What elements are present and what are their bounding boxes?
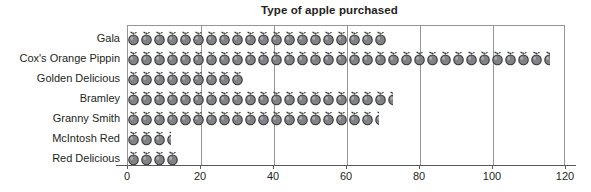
y-axis-label: Bramley: [0, 88, 123, 108]
apple-icon: [166, 51, 179, 66]
apple-icon: [478, 51, 491, 66]
apple-icon: [309, 91, 322, 106]
pictogram-row: [127, 48, 550, 68]
apple-icon: [322, 51, 335, 66]
apple-icon: [179, 91, 192, 106]
apple-icon: [543, 51, 550, 66]
apple-icon: [374, 31, 386, 46]
apple-icon-partial: [374, 111, 379, 126]
chart-title: Type of apple purchased: [34, 4, 591, 16]
pictogram-row: [127, 88, 393, 108]
apple-icon: [283, 111, 296, 126]
apple-icon: [361, 31, 374, 46]
pictogram-row: [127, 108, 379, 128]
x-axis-tick-label: 120: [545, 170, 585, 182]
apple-icon: [244, 91, 257, 106]
apple-icon: [309, 31, 322, 46]
apple-icon: [153, 31, 166, 46]
apple-icon: [192, 71, 205, 86]
apple-icon: [127, 131, 140, 146]
apple-icon: [361, 51, 374, 66]
apple-icon: [322, 91, 335, 106]
apple-icon: [153, 151, 166, 166]
apple-icon: [153, 111, 166, 126]
x-axis-tick-label: 80: [399, 170, 439, 182]
x-axis-tick-label: 40: [253, 170, 293, 182]
apple-icon: [361, 91, 374, 106]
apple-icon: [426, 51, 439, 66]
apple-icon-partial: [231, 71, 244, 86]
x-axis-tick: [273, 165, 274, 169]
apple-icon: [166, 91, 179, 106]
apple-icon: [140, 91, 153, 106]
apple-icon: [179, 71, 192, 86]
apple-icon: [179, 111, 192, 126]
apple-icon: [283, 51, 296, 66]
apple-icon: [296, 31, 309, 46]
apple-icon: [205, 111, 218, 126]
apple-icon: [296, 51, 309, 66]
apple-icon: [296, 91, 309, 106]
apple-icon: [257, 91, 270, 106]
x-axis-tick-label: 0: [107, 170, 147, 182]
apple-icon: [387, 91, 393, 106]
apple-icon: [374, 91, 387, 106]
apple-icon: [231, 91, 244, 106]
apple-icon: [127, 111, 140, 126]
apple-icon: [335, 91, 348, 106]
apple-icon: [127, 91, 140, 106]
x-axis-tick: [127, 165, 128, 169]
apple-icon: [361, 111, 374, 126]
apple-icon: [218, 71, 231, 86]
y-axis-label: Red Delicious: [0, 148, 123, 168]
pictogram-row: [127, 28, 386, 48]
pictogram-row: [127, 68, 244, 88]
apple-icon-partial: [166, 151, 178, 166]
apple-icon: [257, 31, 270, 46]
apple-icon: [517, 51, 530, 66]
apple-icon: [140, 71, 153, 86]
y-axis-label: Cox's Orange Pippin: [0, 48, 123, 68]
apple-icon: [127, 151, 140, 166]
apple-icon: [127, 71, 140, 86]
x-axis-tick: [419, 165, 420, 169]
y-axis-label: Granny Smith: [0, 108, 123, 128]
apple-icon: [374, 111, 379, 126]
x-axis-tick-label: 20: [180, 170, 220, 182]
apple-icon: [192, 91, 205, 106]
apple-icon-partial: [374, 31, 386, 46]
x-axis-tick-label: 100: [472, 170, 512, 182]
x-axis-tick: [565, 165, 566, 169]
apple-icon: [244, 111, 257, 126]
apple-icon: [335, 51, 348, 66]
apple-icon: [283, 31, 296, 46]
apple-icon-partial: [543, 51, 550, 66]
apple-icon: [530, 51, 543, 66]
apple-icon: [140, 51, 153, 66]
apple-icon: [166, 151, 178, 166]
apple-icon: [153, 51, 166, 66]
apple-icon: [153, 71, 166, 86]
apple-icon: [283, 91, 296, 106]
x-axis-tick-label: 60: [326, 170, 366, 182]
x-axis-tick: [200, 165, 201, 169]
y-axis-label: Golden Delicious: [0, 68, 123, 88]
apple-icon: [348, 91, 361, 106]
apple-icon: [296, 111, 309, 126]
apple-icon: [192, 51, 205, 66]
apple-icon: [179, 31, 192, 46]
apple-icon: [179, 51, 192, 66]
y-axis-labels: GalaCox's Orange PippinGolden DeliciousB…: [0, 25, 123, 165]
apple-icon: [218, 111, 231, 126]
apple-icon: [192, 31, 205, 46]
apple-icon: [244, 31, 257, 46]
apple-icon: [309, 111, 322, 126]
x-axis-tick: [346, 165, 347, 169]
apple-icon: [465, 51, 478, 66]
apple-icon: [166, 31, 179, 46]
apple-icon: [231, 71, 244, 86]
apple-icon: [153, 91, 166, 106]
apple-icon: [270, 51, 283, 66]
apple-icon: [140, 151, 153, 166]
apple-icon: [244, 51, 257, 66]
